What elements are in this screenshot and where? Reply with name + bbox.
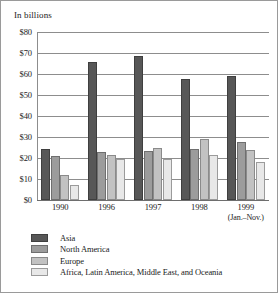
x-tick-label: 1999(Jan.–Nov.) [228, 202, 264, 222]
bar-group [88, 32, 126, 200]
x-tick-label: 1990 [52, 202, 69, 212]
y-tick-label: $40 [20, 111, 32, 121]
y-axis: $0$10$20$30$40$50$60$70$80 [1, 32, 35, 200]
legend-item: North America [31, 244, 271, 256]
gridline [37, 200, 269, 201]
x-tick-sublabel: (Jan.–Nov.) [228, 213, 264, 222]
chart-figure: In billions $0$10$20$30$40$50$60$70$80 1… [0, 0, 278, 293]
bar [70, 185, 79, 200]
bar-group [181, 32, 219, 200]
bar [107, 155, 116, 200]
y-tick-label: $20 [20, 153, 32, 163]
bar [97, 152, 106, 200]
bar [256, 162, 265, 200]
bar-group [134, 32, 172, 200]
legend-label: Europe [60, 256, 84, 266]
bar [88, 62, 97, 200]
legend-swatch [31, 257, 48, 265]
bar [190, 149, 199, 200]
y-tick-label: $50 [20, 90, 32, 100]
bar [227, 76, 236, 200]
y-tick-label: $60 [20, 69, 32, 79]
x-axis: 19901996199719981999(Jan.–Nov.) [37, 202, 269, 232]
bar [153, 148, 162, 200]
y-tick-label: $70 [20, 48, 32, 58]
x-tick-label: 1997 [145, 202, 162, 212]
x-tick-label: 1998 [191, 202, 208, 212]
legend-item: Africa, Latin America, Middle East, and … [31, 267, 271, 279]
bar [163, 159, 172, 200]
legend-swatch [31, 268, 48, 276]
legend-item: Asia [31, 232, 271, 244]
bar [181, 79, 190, 200]
bar [209, 155, 218, 200]
bar [116, 159, 125, 200]
chart-title: In billions [14, 10, 52, 20]
y-tick-label: $10 [20, 174, 32, 184]
bar [246, 150, 255, 200]
y-tick-label: $80 [20, 27, 32, 37]
legend-item: Europe [31, 255, 271, 267]
y-tick-label: $30 [20, 132, 32, 142]
bar [51, 156, 60, 200]
bar [134, 56, 143, 200]
bar [41, 149, 50, 200]
legend-label: Africa, Latin America, Middle East, and … [60, 267, 222, 277]
legend-swatch [31, 245, 48, 253]
legend-label: North America [60, 244, 109, 254]
legend-swatch [31, 234, 48, 242]
x-tick-label: 1996 [98, 202, 115, 212]
bar [60, 175, 69, 200]
bar [237, 142, 246, 200]
plot-area [37, 32, 269, 200]
bar [200, 139, 209, 200]
bar-group [41, 32, 79, 200]
bar [144, 151, 153, 200]
bar-group [227, 32, 265, 200]
legend-label: Asia [60, 233, 75, 243]
chart-legend: AsiaNorth AmericaEuropeAfrica, Latin Ame… [31, 232, 271, 278]
y-tick-label: $0 [24, 195, 32, 205]
